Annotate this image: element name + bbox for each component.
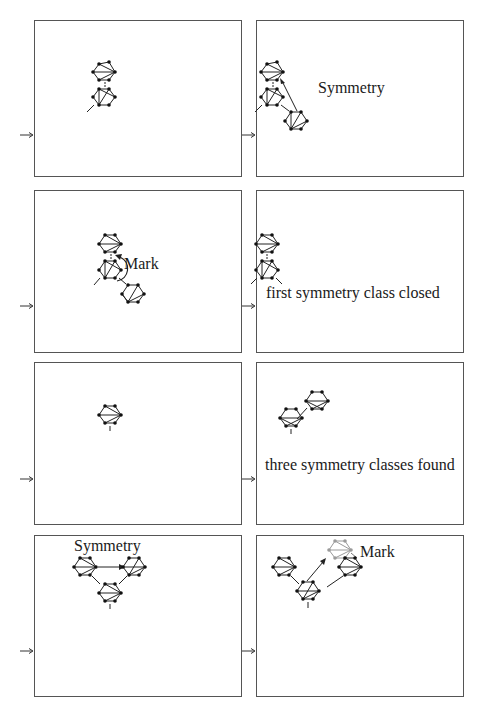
panel-2: Symmetry [256, 20, 464, 177]
arrowhead-icon [280, 78, 285, 84]
hexagon-node [278, 407, 304, 428]
panel-label: three symmetry classes found [265, 457, 455, 473]
panel-6: three symmetry classes found [256, 362, 464, 525]
hexagon-node [97, 259, 123, 280]
hexagon-node [259, 87, 285, 107]
search-tree-graph [257, 536, 465, 698]
hexagon-node [97, 582, 123, 603]
hexagon-node [97, 233, 123, 254]
search-tree-graph [35, 191, 243, 354]
panel-4: first symmetry class closed [256, 190, 464, 353]
search-tree-graph [35, 536, 243, 698]
tree-edge [119, 576, 127, 584]
hexagon-node [120, 283, 146, 304]
tree-edge [94, 278, 100, 285]
hexagon-node [254, 233, 280, 254]
hexagon-node [304, 390, 330, 411]
panel-8: Mark [256, 535, 464, 697]
hexagon-node [91, 60, 117, 82]
tree-edge [87, 105, 94, 112]
tree-edge [251, 278, 257, 284]
tree-edge [281, 105, 289, 111]
search-tree-graph [257, 191, 465, 354]
hexagon-node [271, 556, 297, 577]
marked-hexagon-node [327, 539, 353, 560]
search-tree-graph [35, 363, 243, 526]
hexagon-node [72, 556, 98, 577]
search-tree-graph [257, 363, 465, 526]
arrowhead-icon [115, 254, 122, 260]
panel-label: Symmetry [318, 80, 385, 96]
right-arrow-icon [20, 475, 34, 483]
right-arrow-icon [20, 647, 34, 655]
tree-edge [92, 576, 100, 584]
panel-label: first symmetry class closed [266, 285, 440, 301]
hexagon-node [91, 87, 117, 107]
hexagon-node [97, 404, 123, 425]
tree-edge [291, 576, 299, 584]
right-arrow-icon [242, 475, 256, 483]
panel-7: Symmetry [34, 535, 242, 697]
hexagon-node [254, 259, 280, 280]
panel-3: Mark [34, 190, 242, 353]
panel-label: Mark [360, 544, 395, 560]
right-arrow-icon [242, 131, 256, 139]
tree-edge [327, 576, 343, 587]
search-tree-graph [257, 21, 465, 178]
right-arrow-icon [20, 131, 34, 139]
hexagon-node [337, 556, 363, 577]
panel-1 [34, 20, 242, 177]
hexagon-node [283, 110, 309, 131]
tree-edge [255, 105, 262, 112]
right-arrow-icon [242, 647, 256, 655]
panel-label: Symmetry [74, 538, 141, 554]
hexagon-node [259, 60, 285, 82]
panel-5 [34, 362, 242, 525]
hexagon-node [295, 580, 321, 601]
right-arrow-icon [242, 302, 256, 310]
panel-label: Mark [124, 256, 159, 272]
hexagon-node [121, 556, 147, 577]
right-arrow-icon [20, 302, 34, 310]
mark-arrow [307, 562, 323, 581]
search-tree-graph [35, 21, 243, 178]
